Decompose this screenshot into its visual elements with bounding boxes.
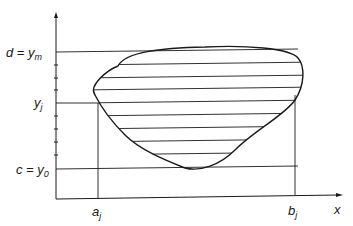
label-bj: bj [288, 203, 298, 220]
region-hatching [80, 62, 320, 155]
c-level-line [56, 166, 298, 169]
label-yj: yj [33, 95, 44, 112]
d-level-line [56, 49, 298, 52]
label-d-ym: d = ym [6, 45, 43, 62]
label-x-axis: x [333, 202, 341, 217]
label-c-y0: c = y0 [16, 162, 49, 179]
label-aj: aj [92, 204, 102, 221]
x-axis-arrow-icon [336, 193, 343, 197]
y-axis-arrow-icon [54, 12, 58, 18]
diagram-canvas: d = ym yj c = y0 aj bj x [0, 0, 353, 226]
region-diagram: d = ym yj c = y0 aj bj x [0, 0, 353, 226]
